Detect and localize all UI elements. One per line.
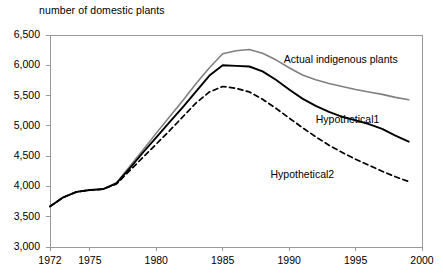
- series-label: Actual indigenous plants: [284, 53, 398, 65]
- y-tick-label: 3,000: [0, 240, 40, 252]
- x-tick-label: 1975: [68, 254, 112, 266]
- series-lines: [50, 50, 409, 207]
- series-line: [50, 50, 409, 207]
- y-tick-label: 4,500: [0, 149, 40, 161]
- y-tick-label: 3,500: [0, 210, 40, 222]
- y-tick-label: 5,000: [0, 119, 40, 131]
- y-tick-label: 5,500: [0, 89, 40, 101]
- plot-area: [0, 0, 443, 277]
- series-label: Hypothetical2: [271, 168, 335, 180]
- x-tick-label: 2000: [400, 254, 443, 266]
- y-tick-label: 6,000: [0, 58, 40, 70]
- x-tick-label: 1995: [334, 254, 378, 266]
- y-tick-label: 6,500: [0, 28, 40, 40]
- series-line: [50, 65, 409, 206]
- chart-container: number of domestic plants 6,5006,0005,50…: [0, 0, 443, 277]
- x-tick-label: 1990: [267, 254, 311, 266]
- x-tick-label: 1985: [201, 254, 245, 266]
- y-tick-label: 4,000: [0, 179, 40, 191]
- axis-ticks: [46, 35, 422, 251]
- x-tick-label: 1980: [134, 254, 178, 266]
- series-label: Hypothetical1: [316, 113, 380, 125]
- x-tick-label: 1972: [28, 254, 72, 266]
